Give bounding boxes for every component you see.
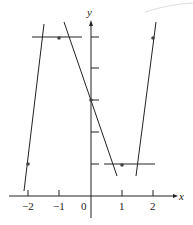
point-minus-1 — [57, 36, 61, 40]
x-tick-label: 1 — [119, 200, 125, 212]
x-tick-label: 0 — [81, 200, 87, 212]
point-minus-2 — [26, 162, 30, 166]
x-axis-label: x — [178, 190, 184, 202]
x-axis-arrow-icon — [173, 194, 178, 198]
point-1 — [120, 163, 124, 167]
x-tick-label: −1 — [53, 200, 65, 212]
tangent-at-minus-2 — [24, 24, 44, 191]
tangent-at-2 — [136, 22, 156, 176]
y-axis-arrow-icon — [89, 20, 93, 26]
y-axis-label: y — [86, 6, 92, 18]
page-curve — [145, 3, 193, 12]
x-tick-label: −2 — [22, 200, 34, 212]
point-0 — [89, 98, 93, 102]
x-tick-label: 2 — [150, 200, 156, 212]
tangent-lines — [24, 22, 156, 191]
chart: −2 −1 0 1 2 x y — [0, 0, 193, 225]
point-2 — [151, 36, 155, 40]
